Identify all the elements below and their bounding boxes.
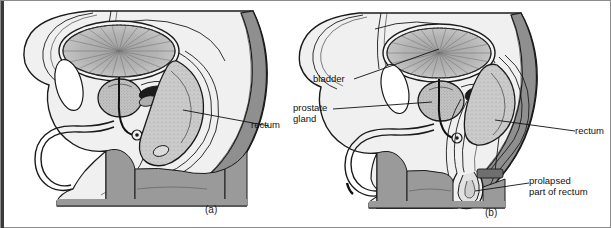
perineum-a [57, 151, 106, 206]
panel-a-normal-anatomy: rectum (a) [1, 1, 291, 228]
label-rectum-b-text: rectum [575, 125, 604, 136]
label-rectum-a-text: rectum [251, 119, 280, 130]
prostate-gland-b [418, 81, 464, 121]
label-prolapse-b-line2: part of rectum [529, 186, 588, 197]
caption-b: (b) [485, 207, 497, 218]
anal-sphincter-b [477, 169, 503, 178]
label-prolapse-b-line1: prolapsed [529, 175, 571, 186]
label-prostate-b-line1: prostate [293, 102, 327, 113]
label-prostate-b-line2: gland [293, 113, 316, 124]
label-bladder-b-text: bladder [313, 73, 345, 84]
figure-frame: rectum (a) [0, 0, 611, 228]
panel-b-rectal-prolapse: bladder prostate gland rectum prolapsed … [291, 1, 611, 228]
caption-a: (a) [205, 204, 217, 215]
